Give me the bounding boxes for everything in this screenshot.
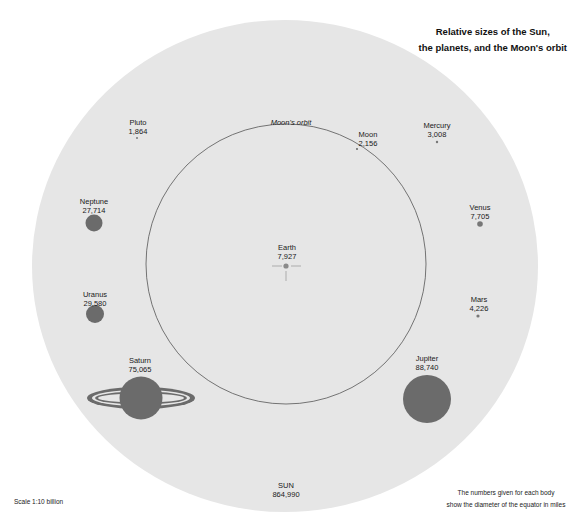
sun-diameter: 864,990	[272, 490, 299, 499]
sun-name: SUN	[272, 481, 299, 490]
pluto-dot	[136, 137, 138, 139]
saturn-diameter: 75,065	[129, 365, 152, 374]
mars-dot	[476, 314, 479, 317]
moon-orbit-label: Moon's orbit	[271, 118, 312, 127]
venus-name: Venus	[470, 203, 491, 212]
neptune-label: Neptune 27,714	[80, 197, 108, 215]
saturn-label: Saturn 75,065	[129, 356, 152, 374]
mercury-label: Mercury 3,008	[423, 121, 450, 139]
venus-label: Venus 7,705	[470, 203, 491, 221]
sun-label: SUN 864,990	[272, 481, 299, 499]
uranus-name: Uranus	[83, 290, 107, 299]
scale-label: Scale 1:10 billion	[14, 498, 63, 505]
diagram-canvas	[0, 0, 581, 529]
mercury-dot	[436, 141, 438, 143]
diameter-note: The numbers given for each body show the…	[426, 487, 581, 511]
venus-diameter: 7,705	[470, 212, 491, 221]
mercury-name: Mercury	[423, 121, 450, 130]
neptune-disc	[86, 215, 103, 232]
pluto-name: Pluto	[129, 118, 148, 127]
uranus-diameter: 29,580	[83, 299, 107, 308]
moon-diameter: 2,156	[359, 139, 378, 148]
neptune-name: Neptune	[80, 197, 108, 206]
moon-label: Moon 2,156	[359, 130, 378, 148]
solar-system-diagram: Relative sizes of the Sun, the planets, …	[0, 0, 581, 529]
venus-dot	[477, 221, 483, 227]
earth-label: Earth 7,927	[278, 243, 297, 261]
diagram-title: Relative sizes of the Sun, the planets, …	[419, 24, 567, 56]
note-line-2: show the diameter of the equator in mile…	[426, 499, 581, 511]
jupiter-diameter: 88,740	[416, 363, 439, 372]
moon-dot	[356, 148, 358, 150]
title-line-1: Relative sizes of the Sun,	[419, 24, 567, 40]
moon-name: Moon	[359, 130, 378, 139]
earth-diameter: 7,927	[278, 252, 297, 261]
earth-dot	[283, 263, 288, 268]
pluto-diameter: 1,864	[129, 127, 148, 136]
jupiter-name: Jupiter	[416, 354, 439, 363]
mars-name: Mars	[470, 295, 489, 304]
note-line-1: The numbers given for each body	[426, 487, 581, 499]
title-line-2: the planets, and the Moon's orbit	[419, 40, 567, 56]
mercury-diameter: 3,008	[423, 130, 450, 139]
jupiter-label: Jupiter 88,740	[416, 354, 439, 372]
saturn-name: Saturn	[129, 356, 152, 365]
neptune-diameter: 27,714	[80, 206, 108, 215]
uranus-label: Uranus 29,580	[83, 290, 107, 308]
saturn-disc	[120, 377, 163, 420]
earth-name: Earth	[278, 243, 297, 252]
jupiter-disc	[403, 375, 451, 423]
pluto-label: Pluto 1,864	[129, 118, 148, 136]
mars-label: Mars 4,226	[470, 295, 489, 313]
mars-diameter: 4,226	[470, 304, 489, 313]
